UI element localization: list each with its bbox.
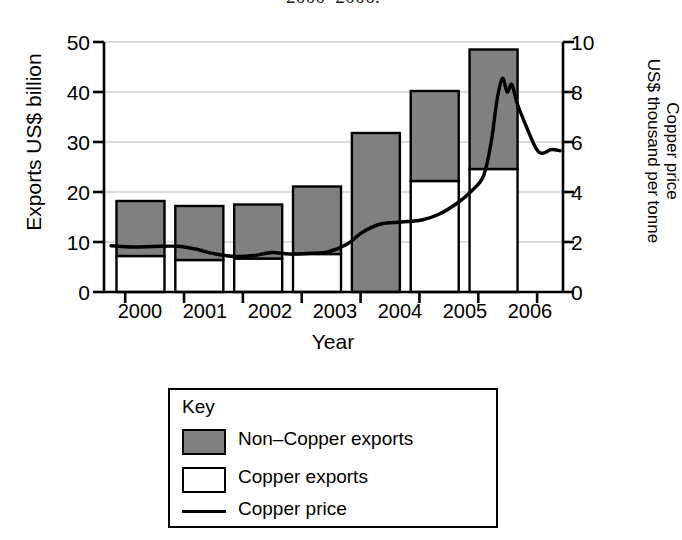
y-right-tick-6: 6 xyxy=(571,131,615,155)
y-left-tick-10: 10 xyxy=(46,231,90,255)
legend-swatch-line-icon xyxy=(182,510,226,513)
legend-swatch-non-copper-icon xyxy=(182,429,226,455)
y-right-tick-0: 0 xyxy=(571,281,615,305)
y-right-tick-8: 8 xyxy=(571,81,615,105)
y-right-tick-4: 4 xyxy=(571,181,615,205)
legend-label-non-copper-exports: Non–Copper exports xyxy=(238,428,413,450)
copper-price-line xyxy=(111,78,560,256)
bars-non-copper-exports xyxy=(116,50,517,293)
y-axis-left-title: Exports US$ billion xyxy=(22,12,46,272)
gridlines xyxy=(104,42,563,242)
y-left-tick-50: 50 xyxy=(46,31,90,55)
x-tick-2005: 2005 xyxy=(430,300,500,323)
x-axis-title: Year xyxy=(0,330,666,354)
y-left-tick-0: 0 xyxy=(46,281,90,305)
y-left-tick-40: 40 xyxy=(46,81,90,105)
y-axis-left-spine xyxy=(93,42,104,292)
y-right-tick-10: 10 xyxy=(571,31,615,55)
chart-legend: Key Non–Copper exports Copper exports Co… xyxy=(168,388,498,528)
chart-title-text: 2000–2006. xyxy=(286,0,380,7)
chart-title-clipped: 2000–2006. xyxy=(0,0,666,12)
y-left-tick-30: 30 xyxy=(46,131,90,155)
bars-copper-exports xyxy=(116,169,517,292)
x-tick-2000: 2000 xyxy=(105,300,175,323)
legend-label-copper-price: Copper price xyxy=(238,498,347,520)
y-axis-right-title-line2: US$ thousand per tonne xyxy=(644,21,663,281)
legend-heading: Key xyxy=(182,396,215,418)
x-tick-2006: 2006 xyxy=(495,300,565,323)
x-tick-2003: 2003 xyxy=(300,300,370,323)
y-axis-right-title: Copper price US$ thousand per tonne xyxy=(644,21,682,281)
x-tick-2002: 2002 xyxy=(235,300,305,323)
y-axis-right-title-line1: Copper price xyxy=(663,21,682,281)
legend-swatch-copper-icon xyxy=(182,467,226,493)
x-tick-2004: 2004 xyxy=(365,300,435,323)
y-right-tick-2: 2 xyxy=(571,231,615,255)
x-tick-2001: 2001 xyxy=(170,300,240,323)
legend-label-copper-exports: Copper exports xyxy=(238,466,368,488)
y-left-tick-20: 20 xyxy=(46,181,90,205)
